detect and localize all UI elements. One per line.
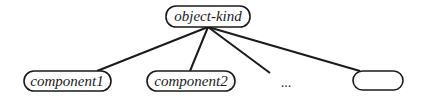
child-node-box	[353, 71, 403, 90]
child-node-component1: component1	[24, 71, 111, 91]
child-node-empty	[353, 71, 403, 90]
root-node-label: object-kind	[174, 8, 242, 24]
root-node: object-kind	[166, 6, 250, 27]
tree-diagram: object-kind component1 component2 ...	[0, 0, 423, 98]
edge-root-empty-node	[208, 27, 360, 71]
child-node-label: component2	[154, 73, 228, 89]
child-node-label: component1	[30, 73, 103, 89]
edge-root-ellipsis	[208, 27, 270, 73]
ellipsis-text: ...	[281, 75, 292, 90]
child-node-component2: component2	[147, 71, 235, 91]
edge-root-component1	[97, 27, 208, 71]
